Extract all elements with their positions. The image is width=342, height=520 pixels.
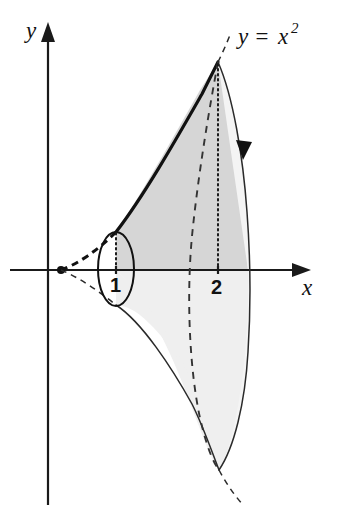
y-axis-label: y bbox=[24, 18, 37, 43]
solid-of-revolution-figure: y x 1 2 y = x 2 bbox=[0, 0, 342, 520]
curve-equation-lhs: y bbox=[236, 24, 249, 49]
y-axis-arrowhead-icon bbox=[41, 22, 55, 42]
curve-dashed-tail-bottom bbox=[219, 470, 244, 506]
curve-equation-label: y = x 2 bbox=[236, 20, 299, 49]
curve-parabola-dashed-segment bbox=[61, 232, 116, 270]
tick-label-2: 2 bbox=[211, 276, 222, 298]
figure-root: y x 1 2 y = x 2 bbox=[0, 0, 342, 520]
curve-equation-base: x bbox=[277, 24, 289, 49]
curve-equation-equals: = bbox=[254, 24, 270, 49]
x-axis-label: x bbox=[301, 275, 313, 300]
tick-label-1: 1 bbox=[110, 274, 121, 296]
curve-dotted-tail-top bbox=[218, 35, 230, 62]
curve-equation-exponent: 2 bbox=[291, 20, 299, 36]
curve-parabola-reflected-dashed-segment bbox=[61, 270, 116, 305]
